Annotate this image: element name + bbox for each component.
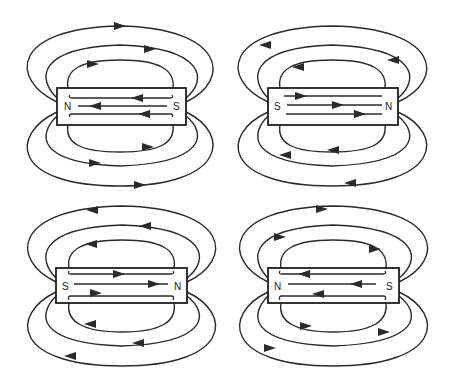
pole-label-left: N [64,101,71,112]
pole-label-right: S [386,281,393,292]
pole-label-right: S [173,101,180,112]
pole-label-left: S [62,281,69,292]
pole-label-left: N [274,281,281,292]
internal-field-lines-top-left [69,94,172,118]
internal-field-lines-top-right [284,92,382,118]
bar-magnet-bottom-right [268,268,399,303]
magnet-diagram-top-right: S N [238,26,427,187]
magnetic-field-diagram: N S S N [0,0,451,385]
magnet-diagram-top-left: N S [27,22,213,189]
magnet-diagram-bottom-left: S N [28,206,216,366]
magnet-diagram-bottom-right: N S [240,205,428,366]
pole-label-right: N [174,281,181,292]
pole-label-left: S [274,101,281,112]
pole-label-right: N [385,101,392,112]
